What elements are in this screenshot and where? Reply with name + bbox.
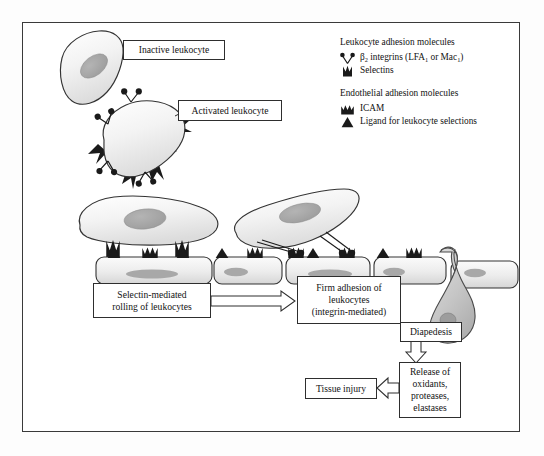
legend-label-icam: ICAM bbox=[360, 102, 384, 115]
arrow-diapedesis-to-release bbox=[406, 341, 426, 363]
arrow-release-to-tissue-injury bbox=[377, 378, 399, 398]
legend-label-ligand: Ligand for leukocyte selections bbox=[360, 115, 477, 128]
legend-item-beta2-integrins: β2 integrins (LFA1 or Mac1) bbox=[340, 51, 522, 64]
legend-heading-leukocyte: Leukocyte adhesion molecules bbox=[340, 36, 522, 49]
step-rolling-line1: Selectin-mediated bbox=[117, 289, 186, 301]
legend-heading-endothelial: Endothelial adhesion molecules bbox=[340, 87, 522, 100]
step-diapedesis-box: Diapedesis bbox=[400, 322, 462, 342]
step-release-line1: Release of bbox=[410, 366, 450, 378]
legend-item-icam: ICAM bbox=[340, 102, 522, 115]
step-firm-adhesion-box: Firm adhesion of leukocytes (integrin-me… bbox=[297, 276, 401, 324]
step-release-line4: elastases bbox=[413, 402, 447, 414]
step-firm-adhesion-line1: Firm adhesion of bbox=[316, 282, 382, 294]
legend-item-selectins: Selectins bbox=[340, 64, 522, 77]
arrow-rolling-to-firm-adhesion bbox=[211, 291, 295, 311]
legend-label-beta2-integrins: β2 integrins (LFA1 or Mac1) bbox=[360, 51, 463, 64]
step-release-box: Release of oxidants, proteases, elastase… bbox=[399, 362, 461, 418]
callout-inactive-leukocyte-text: Inactive leukocyte bbox=[139, 44, 210, 56]
step-tissue-injury-text: Tissue injury bbox=[316, 383, 366, 395]
step-firm-adhesion-line3: (integrin-mediated) bbox=[312, 306, 387, 318]
step-firm-adhesion-line2: leukocytes bbox=[328, 294, 369, 306]
step-tissue-injury-box: Tissue injury bbox=[305, 378, 377, 399]
callout-inactive-leukocyte: Inactive leukocyte bbox=[123, 40, 225, 60]
step-rolling-line2: rolling of leukocytes bbox=[112, 301, 191, 313]
legend-label-selectins: Selectins bbox=[360, 64, 394, 77]
step-rolling-box: Selectin-mediated rolling of leukocytes bbox=[93, 283, 211, 318]
callout-activated-leukocyte-text: Activated leukocyte bbox=[192, 105, 269, 117]
step-release-line3: proteases, bbox=[411, 390, 449, 402]
icam-icon bbox=[340, 102, 355, 115]
beta2-integrin-icon bbox=[340, 51, 355, 64]
callout-activated-leukocyte: Activated leukocyte bbox=[178, 100, 282, 121]
selectin-icon bbox=[340, 64, 355, 77]
ligand-icon bbox=[340, 115, 355, 128]
legend: Leukocyte adhesion molecules β2 integrin… bbox=[340, 36, 522, 128]
legend-spacer bbox=[340, 78, 522, 87]
step-release-line2: oxidants, bbox=[413, 378, 448, 390]
figure-canvas: Inactive leukocyte Activated leukocyte S… bbox=[0, 0, 544, 456]
legend-item-ligand: Ligand for leukocyte selections bbox=[340, 115, 522, 128]
step-diapedesis-text: Diapedesis bbox=[410, 326, 452, 338]
